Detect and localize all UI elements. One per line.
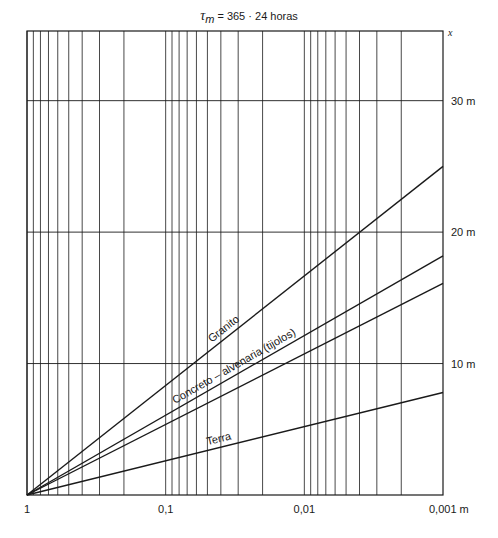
- x-tick-label: 0,001 m: [429, 503, 469, 515]
- grid: [27, 31, 443, 495]
- x-tick-label: 0,01: [294, 503, 315, 515]
- x-tick-label: 0,1: [158, 503, 173, 515]
- series-labels: GranitoConcreto – alvenaria (tijolos)Ter…: [170, 313, 297, 448]
- series-line-concreto-alvenaria: [27, 256, 443, 495]
- series-label: Concreto – alvenaria (tijolos): [170, 326, 297, 406]
- y-axis-label: x: [447, 27, 453, 38]
- axes: 10,10,010,001 m10 m20 m30 mx: [24, 27, 476, 515]
- series-line-granito: [27, 166, 443, 495]
- x-tick-label: 1: [24, 503, 30, 515]
- series-lines: [27, 166, 443, 495]
- y-tick-label: 10 m: [451, 358, 475, 370]
- y-tick-label: 30 m: [451, 95, 475, 107]
- chart-svg: GranitoConcreto – alvenaria (tijolos)Ter…: [0, 0, 498, 538]
- y-tick-label: 20 m: [451, 226, 475, 238]
- series-line-terra: [27, 392, 443, 495]
